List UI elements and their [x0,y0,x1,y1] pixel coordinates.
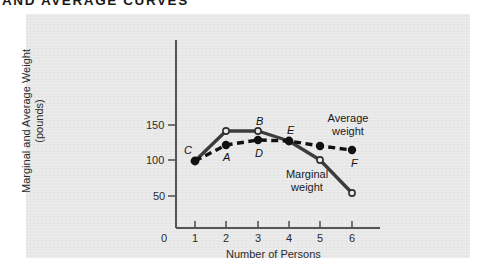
y-axis-label-line1: Marginal and Average Weight [20,49,32,193]
point-label-e: E [287,124,294,136]
y-tick-label-150: 150 [146,119,164,131]
x-tick-label-5: 5 [317,232,323,244]
x-axis-label: Number of Persons [226,248,321,260]
x-tick-label-3: 3 [255,232,261,244]
point-label-c: C [184,144,192,156]
marginal-weight-line2: weight [291,181,323,193]
point-label-d: D [255,147,263,159]
chart-plot-svg [0,0,495,272]
x-tick-label-0: 0 [161,232,167,244]
x-tick-label-4: 4 [286,232,292,244]
y-axis-ticks [168,125,176,196]
point-label-b: B [256,115,263,127]
x-axis-ticks [195,221,352,228]
marginal-weight-annotation: Marginal weight [276,168,338,194]
average-weight-annotation: Average weight [318,112,378,138]
x-tick-label-6: 6 [349,232,355,244]
point-label-a: A [223,151,230,163]
y-axis-label-line2: (pounds) [33,99,45,142]
y-axis-label: Marginal and Average Weight (pounds) [20,41,46,201]
y-tick-label-50: 50 [153,190,165,202]
average-weight-line1: Average [328,112,369,124]
x-tick-label-2: 2 [223,232,229,244]
x-tick-label-1: 1 [192,232,198,244]
average-weight-line2: weight [332,125,364,137]
y-tick-label-100: 100 [146,154,164,166]
point-label-f: F [351,157,358,169]
marginal-weight-line1: Marginal [286,168,328,180]
